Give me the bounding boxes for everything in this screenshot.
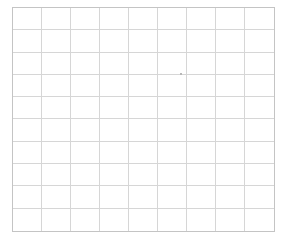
grid-cell[interactable] <box>129 30 158 52</box>
grid-cell[interactable] <box>216 164 245 186</box>
grid-cell[interactable] <box>71 53 100 75</box>
grid-cell[interactable] <box>42 119 71 141</box>
canvas <box>0 0 286 238</box>
grid-cell[interactable] <box>71 164 100 186</box>
grid-cell[interactable] <box>216 97 245 119</box>
grid-cell[interactable] <box>158 209 187 231</box>
grid-cell[interactable] <box>100 119 129 141</box>
grid-cell[interactable] <box>187 97 216 119</box>
grid-cell[interactable] <box>13 97 42 119</box>
grid-cell[interactable] <box>158 164 187 186</box>
grid-cell[interactable] <box>71 75 100 97</box>
grid-cell[interactable] <box>42 97 71 119</box>
grid-cell[interactable] <box>13 119 42 141</box>
grid-cell[interactable] <box>158 119 187 141</box>
grid-cell[interactable] <box>100 97 129 119</box>
grid-cell[interactable] <box>245 8 274 30</box>
grid-cell[interactable] <box>216 30 245 52</box>
grid-cell[interactable] <box>187 30 216 52</box>
grid-cell[interactable] <box>187 209 216 231</box>
grid-cell[interactable] <box>245 186 274 208</box>
grid-cell[interactable] <box>42 142 71 164</box>
grid-cell[interactable] <box>129 209 158 231</box>
grid-cell[interactable] <box>71 186 100 208</box>
grid-cell[interactable] <box>245 164 274 186</box>
grid-cell[interactable] <box>13 186 42 208</box>
grid-cell[interactable] <box>100 186 129 208</box>
grid-cell[interactable] <box>245 209 274 231</box>
grid-cell[interactable] <box>187 164 216 186</box>
grid-cell[interactable] <box>216 53 245 75</box>
grid-cell[interactable] <box>13 209 42 231</box>
grid-cell[interactable] <box>187 8 216 30</box>
grid-cell[interactable] <box>13 30 42 52</box>
grid-cell[interactable] <box>71 97 100 119</box>
grid-cell[interactable] <box>216 186 245 208</box>
grid-cell[interactable] <box>187 119 216 141</box>
grid-board[interactable] <box>12 7 275 232</box>
grid-cell[interactable] <box>129 142 158 164</box>
grid-cell[interactable] <box>129 53 158 75</box>
grid-cell[interactable] <box>71 30 100 52</box>
grid-cell[interactable] <box>100 75 129 97</box>
grid-cell[interactable] <box>158 75 187 97</box>
grid-cell[interactable] <box>100 30 129 52</box>
grid-cell[interactable] <box>13 53 42 75</box>
grid-cell[interactable] <box>216 142 245 164</box>
grid-cell[interactable] <box>42 164 71 186</box>
grid-cell[interactable] <box>42 53 71 75</box>
grid-cell[interactable] <box>245 142 274 164</box>
grid-cell[interactable] <box>245 53 274 75</box>
grid-cell[interactable] <box>245 97 274 119</box>
grid-cell[interactable] <box>71 209 100 231</box>
grid-cell[interactable] <box>42 209 71 231</box>
grid-cell[interactable] <box>129 164 158 186</box>
grid-cell[interactable] <box>13 164 42 186</box>
grid-cell[interactable] <box>13 142 42 164</box>
grid-cell[interactable] <box>216 119 245 141</box>
grid-cell[interactable] <box>100 164 129 186</box>
grid-cell[interactable] <box>100 8 129 30</box>
grid-cell[interactable] <box>129 186 158 208</box>
grid-cell[interactable] <box>158 8 187 30</box>
grid-cell[interactable] <box>245 119 274 141</box>
grid-cell[interactable] <box>216 75 245 97</box>
grid-cell[interactable] <box>216 209 245 231</box>
grid-cell[interactable] <box>187 75 216 97</box>
grid-cell[interactable] <box>42 75 71 97</box>
dot-marker <box>180 73 182 75</box>
grid-cell[interactable] <box>158 142 187 164</box>
grid-cell[interactable] <box>129 119 158 141</box>
grid-cell[interactable] <box>158 53 187 75</box>
grid-cell[interactable] <box>13 75 42 97</box>
grid-cell[interactable] <box>13 8 42 30</box>
grid-cell[interactable] <box>100 209 129 231</box>
grid-cell[interactable] <box>187 53 216 75</box>
grid-cell[interactable] <box>158 30 187 52</box>
grid-cell[interactable] <box>129 75 158 97</box>
grid-cell[interactable] <box>187 186 216 208</box>
grid-cell[interactable] <box>42 8 71 30</box>
grid-cell[interactable] <box>71 8 100 30</box>
grid-cell[interactable] <box>245 75 274 97</box>
grid-cell[interactable] <box>129 8 158 30</box>
grid-cell[interactable] <box>100 142 129 164</box>
grid-cell[interactable] <box>71 119 100 141</box>
grid-cell[interactable] <box>42 186 71 208</box>
grid-cell[interactable] <box>42 30 71 52</box>
grid-cell[interactable] <box>129 97 158 119</box>
grid-cell[interactable] <box>100 53 129 75</box>
grid-cell[interactable] <box>158 97 187 119</box>
grid-cell[interactable] <box>71 142 100 164</box>
grid-cell[interactable] <box>158 186 187 208</box>
grid-cell[interactable] <box>216 8 245 30</box>
grid-cell[interactable] <box>245 30 274 52</box>
grid-cell[interactable] <box>187 142 216 164</box>
